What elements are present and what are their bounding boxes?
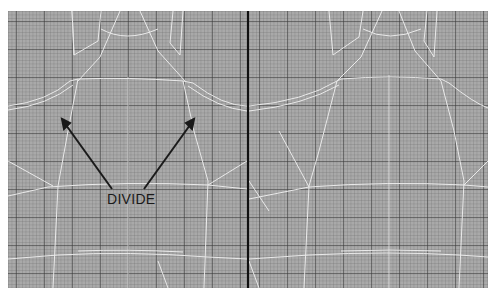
wireframe-mesh-left [8, 11, 247, 288]
viewport-left[interactable]: DIVIDE [8, 11, 247, 288]
arrow-right [144, 125, 190, 189]
viewport-right[interactable] [249, 11, 488, 288]
wireframe-mesh-right [249, 11, 488, 288]
wireframe-viewports: DIVIDE [8, 11, 488, 288]
divide-label: DIVIDE [107, 191, 155, 207]
arrow-left [66, 125, 112, 189]
